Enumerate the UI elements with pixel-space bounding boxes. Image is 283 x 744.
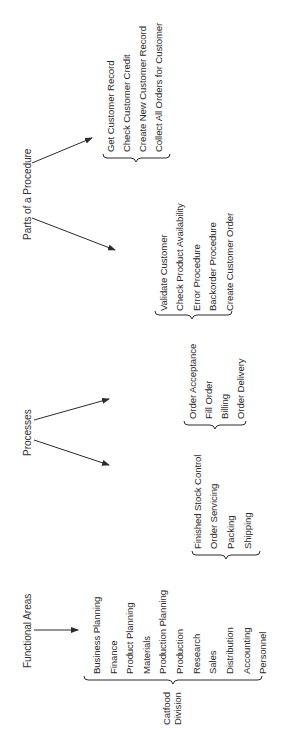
functional-area-item: Production	[174, 629, 185, 674]
parts-of-procedure-header: Parts of a Procedure	[22, 149, 33, 240]
functional-area-item: Finance	[108, 641, 119, 674]
procedure-group-1-brace	[155, 311, 232, 319]
functional-area-item: Production Planning	[157, 590, 168, 674]
functional-area-item: Personnel	[257, 632, 268, 674]
procedure-item: Get Customer Record	[105, 61, 116, 152]
functional-area-item: Business Planning	[91, 597, 102, 674]
process-item: Order Delivery	[235, 359, 246, 419]
functional-area-item: Research	[191, 634, 202, 674]
functional-area-item: Sales	[207, 651, 218, 675]
process-item: Billing	[219, 394, 230, 419]
division-label-line2: Division	[172, 692, 183, 725]
functional-area-item: Materials	[141, 636, 152, 674]
functional-area-item: Accounting	[241, 628, 252, 674]
procedure-item: Validate Customer	[158, 234, 169, 311]
process-item: Order Acceptance	[187, 344, 198, 419]
functional-areas-header: Functional Areas	[22, 594, 33, 668]
procedure-item: Create New Customer Record	[137, 26, 148, 152]
process-group-2-brace	[184, 421, 246, 429]
procedure-arrow-lower	[32, 218, 115, 250]
process-item: Order Servicing	[208, 484, 219, 549]
process-item: Fill Order	[203, 381, 214, 419]
processes-arrow-upper	[34, 399, 109, 420]
procedure-group-2-brace	[103, 154, 170, 162]
procedure-item: Backorder Procedure	[207, 222, 218, 311]
division-label-line1: Catfood	[161, 692, 172, 725]
process-item: Shipping	[242, 512, 253, 549]
procedure-item: Collect All Orders for Customer	[153, 23, 164, 152]
process-item: Finished Stock Control	[192, 455, 203, 549]
processes-header: Processes	[22, 409, 33, 456]
functional-area-item: Product Planning	[124, 603, 135, 674]
procedure-item: Create Customer Order	[224, 213, 235, 311]
diagram-canvas: Functional Areas Processes Parts of a Pr…	[0, 0, 283, 744]
procedure-arrow-upper	[32, 138, 92, 163]
functional-area-item: Distribution	[224, 627, 235, 674]
procedure-item: Check Product Availability	[174, 203, 185, 311]
process-group-1-brace	[192, 551, 260, 559]
functional-areas-brace	[84, 676, 262, 684]
procedure-item: Check Customer Credit	[121, 54, 132, 152]
process-item: Packing	[225, 516, 236, 549]
processes-arrow-lower	[34, 440, 109, 465]
procedure-item: Error Procedure	[191, 244, 202, 311]
